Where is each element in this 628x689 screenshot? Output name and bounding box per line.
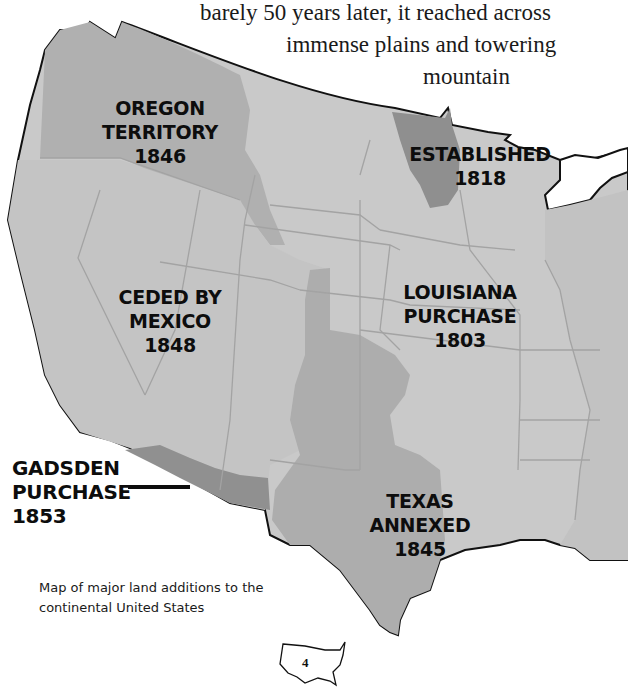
label-gadsden-purchase: GADSDEN PURCHASE 1853 bbox=[12, 456, 142, 528]
map-caption: Map of major land additions to the conti… bbox=[39, 578, 264, 618]
label-established: ESTABLISHED 1818 bbox=[405, 142, 555, 190]
inset-us-outline-icon bbox=[280, 642, 345, 685]
label-texas-annexed: TEXAS ANNEXED 1845 bbox=[360, 489, 480, 561]
page-number: 4 bbox=[302, 655, 309, 671]
label-louisiana-purchase: LOUISIANA PURCHASE 1803 bbox=[395, 280, 525, 352]
label-oregon-territory: OREGON TERRITORY 1846 bbox=[100, 96, 220, 168]
intro-text-line-2: immense plains and towering bbox=[286, 32, 556, 58]
intro-text-line-3: mountain bbox=[423, 64, 510, 90]
label-ceded-by-mexico: CEDED BY MEXICO 1848 bbox=[110, 285, 230, 357]
map-page: barely 50 years later, it reached across… bbox=[0, 0, 628, 689]
intro-text-line-1: barely 50 years later, it reached across bbox=[200, 0, 551, 26]
